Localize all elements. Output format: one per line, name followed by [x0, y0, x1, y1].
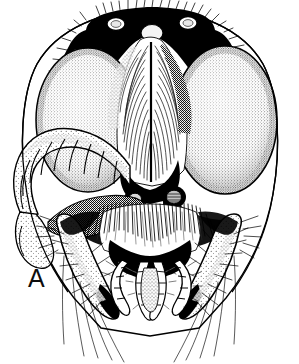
panel-label-a: A	[28, 266, 45, 291]
labium-glossa	[141, 268, 159, 312]
insect-head-illustration	[0, 0, 299, 364]
figure-panel: A	[0, 0, 299, 364]
lateral-ocellus-right-inner	[183, 20, 193, 27]
lateral-ocellus-left-inner	[111, 21, 121, 28]
